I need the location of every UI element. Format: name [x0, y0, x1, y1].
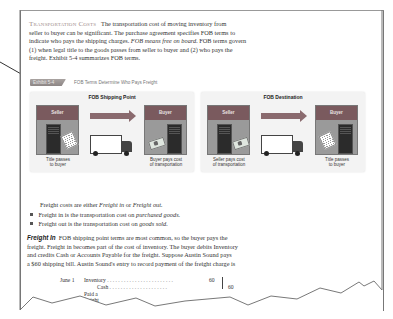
torn-edge: [0, 0, 393, 319]
